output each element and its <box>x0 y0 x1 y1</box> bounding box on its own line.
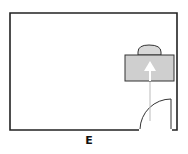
chair-icon <box>138 45 161 55</box>
door-icon <box>140 99 171 129</box>
diagram-label: E <box>82 134 96 147</box>
floor-plan <box>0 0 188 154</box>
